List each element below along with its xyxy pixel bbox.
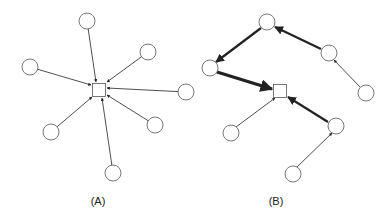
edge-arrow [107, 95, 155, 125]
edge-arrow [216, 28, 261, 62]
diagram-canvas: (A) (B) [0, 0, 392, 218]
node-circle [178, 84, 194, 100]
node-circle [223, 125, 239, 141]
panel-b [202, 14, 374, 182]
panel-a [22, 13, 194, 181]
node-circle [105, 165, 121, 181]
node-circle [140, 44, 156, 60]
node-circle [147, 117, 163, 133]
edge-arrow [107, 88, 186, 92]
edge-arrow [217, 72, 272, 89]
node-circle [43, 124, 59, 140]
edge-arrow [288, 97, 328, 122]
node-circle [79, 13, 95, 29]
panel-a-label: (A) [91, 195, 106, 207]
node-circle [285, 166, 301, 182]
hub-square [93, 84, 106, 97]
edge-arrow [30, 67, 91, 85]
edge-arrow [236, 98, 275, 127]
edge-arrow [87, 21, 96, 82]
hub-square [274, 85, 287, 98]
node-circle [321, 45, 337, 61]
node-circle [202, 60, 218, 76]
edge-arrow [275, 27, 321, 49]
edge-arrow [102, 98, 113, 173]
edge-arrow [297, 133, 332, 167]
panel-b-label: (B) [269, 195, 284, 207]
node-circle [22, 59, 38, 75]
edge-arrow [334, 60, 360, 87]
node-circle [259, 14, 275, 30]
node-circle [358, 85, 374, 101]
node-circle [328, 118, 344, 134]
